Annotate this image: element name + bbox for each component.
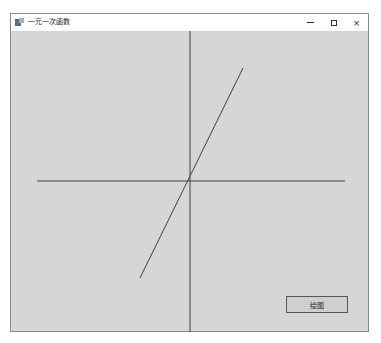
close-button[interactable]: × [345,14,368,31]
plot-canvas [11,31,368,332]
draw-button-label: 绘图 [310,300,324,310]
drawing-area: 绘图 [11,31,368,331]
minimize-button[interactable] [299,14,322,31]
close-icon: × [353,18,361,28]
window-title: 一元一次函数 [28,14,70,31]
app-icon [15,18,24,27]
maximize-button[interactable] [322,14,345,31]
window-controls: × [299,14,368,31]
draw-button[interactable]: 绘图 [286,296,348,313]
function-line [140,68,243,278]
title-bar[interactable]: 一元一次函数 × [11,14,368,31]
app-window: 一元一次函数 × 绘图 [10,13,369,332]
